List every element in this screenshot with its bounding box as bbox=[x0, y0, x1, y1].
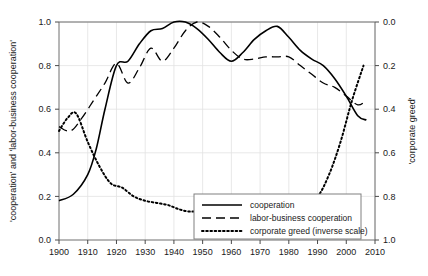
y2-axis-title: 'corporate greed' bbox=[407, 97, 417, 164]
y-tick-label: 0.8 bbox=[38, 61, 51, 71]
y2-tick-label: 0.4 bbox=[383, 104, 396, 114]
series-line-0 bbox=[59, 21, 366, 201]
x-tick-label: 1980 bbox=[279, 247, 299, 257]
x-axis-tick-labels: 1900191019201930194019501960197019801990… bbox=[49, 247, 385, 257]
y-tick-label: 0.6 bbox=[38, 104, 51, 114]
x-tick-label: 1910 bbox=[78, 247, 98, 257]
y2-axis-tick-labels: 0.00.20.40.60.81.0 bbox=[383, 17, 396, 245]
legend-label-2: corporate greed (inverse scale) bbox=[250, 226, 368, 236]
legend-label-1: labor-business cooperation bbox=[250, 213, 352, 223]
y-tick-label: 1.0 bbox=[38, 17, 51, 27]
x-tick-label: 2000 bbox=[336, 247, 356, 257]
legend: cooperationlabor-business cooperationcor… bbox=[194, 194, 368, 239]
y2-tick-label: 1.0 bbox=[383, 235, 396, 245]
y-tick-label: 0.4 bbox=[38, 148, 51, 158]
y-tick-label: 0.2 bbox=[38, 192, 51, 202]
x-tick-label: 1990 bbox=[308, 247, 328, 257]
y-tick-label: 0.0 bbox=[38, 235, 51, 245]
line-chart: 1900191019201930194019501960197019801990… bbox=[0, 0, 428, 276]
x-tick-label: 1940 bbox=[164, 247, 184, 257]
legend-label-0: cooperation bbox=[250, 200, 295, 210]
x-tick-label: 1930 bbox=[135, 247, 155, 257]
y2-tick-label: 0.8 bbox=[383, 192, 396, 202]
y-axis-tick-labels: 0.00.20.40.60.81.0 bbox=[38, 17, 51, 245]
x-tick-label: 1920 bbox=[106, 247, 126, 257]
y-axis-title: 'cooperation' and 'labor-business cooper… bbox=[8, 40, 18, 222]
y2-tick-label: 0.0 bbox=[383, 17, 396, 27]
x-tick-label: 2010 bbox=[365, 247, 385, 257]
y2-tick-label: 0.6 bbox=[383, 148, 396, 158]
y2-tick-label: 0.2 bbox=[383, 61, 396, 71]
x-tick-label: 1950 bbox=[193, 247, 213, 257]
x-tick-label: 1960 bbox=[221, 247, 241, 257]
x-tick-label: 1970 bbox=[250, 247, 270, 257]
x-tick-label: 1900 bbox=[49, 247, 69, 257]
chart-container: 1900191019201930194019501960197019801990… bbox=[0, 0, 428, 276]
series-line-1 bbox=[59, 22, 366, 131]
